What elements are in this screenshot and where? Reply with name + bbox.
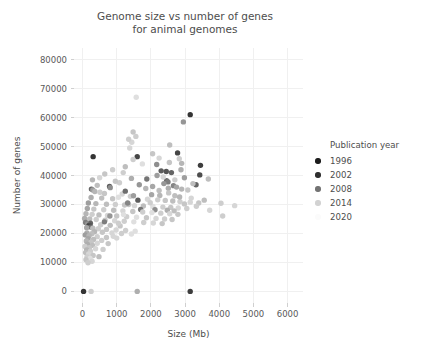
data-point	[167, 142, 172, 147]
y-tick-label: 80000	[40, 55, 67, 65]
data-point	[134, 215, 139, 220]
x-tick-label: 3000	[174, 309, 196, 319]
data-point	[172, 177, 177, 182]
data-point	[198, 163, 203, 168]
data-point	[108, 185, 113, 190]
data-point	[127, 145, 132, 150]
data-point	[96, 254, 101, 259]
legend-marker-icon	[306, 172, 330, 177]
y-tick-label: 30000	[40, 199, 67, 209]
data-point	[232, 203, 237, 208]
data-point	[113, 179, 118, 184]
data-point	[96, 212, 101, 217]
data-point	[121, 170, 126, 175]
data-point	[105, 241, 110, 246]
legend-title: Publication year	[330, 140, 424, 150]
data-point	[164, 169, 169, 174]
data-point	[150, 184, 155, 189]
data-point	[156, 155, 161, 160]
data-point	[218, 201, 223, 206]
tick-layer	[71, 60, 288, 307]
legend-item[interactable]: 2014	[306, 196, 424, 210]
data-point	[83, 211, 88, 216]
y-tick-label: 10000	[40, 257, 67, 267]
data-point	[85, 206, 90, 211]
data-point	[175, 212, 180, 217]
x-tick-label: 1000	[106, 309, 128, 319]
legend-label: 2020	[330, 212, 352, 222]
data-point	[113, 202, 118, 207]
data-point	[116, 221, 121, 226]
data-point	[123, 164, 128, 169]
data-point	[97, 175, 102, 180]
data-point	[149, 210, 154, 215]
data-point	[122, 219, 127, 224]
data-point	[143, 186, 148, 191]
data-point	[170, 198, 175, 203]
data-point	[166, 186, 171, 191]
y-tick-label: 50000	[40, 142, 67, 152]
x-tick-label: 5000	[243, 309, 265, 319]
data-point	[129, 231, 134, 236]
data-point	[104, 235, 109, 240]
legend-label: 2014	[330, 198, 352, 208]
x-tick-label: 4000	[208, 309, 230, 319]
data-point	[85, 260, 90, 265]
data-point	[111, 234, 116, 239]
data-point	[161, 181, 166, 186]
data-point	[220, 213, 225, 218]
data-point	[95, 183, 100, 188]
data-point	[99, 195, 104, 200]
data-point	[177, 194, 182, 199]
legend-item[interactable]: 2002	[306, 168, 424, 182]
data-point	[131, 219, 136, 224]
data-point	[90, 177, 95, 182]
y-tick-label: 70000	[40, 84, 67, 94]
legend-rows: 19962002200820142020	[306, 154, 424, 224]
data-point	[149, 192, 154, 197]
legend-marker-icon	[306, 158, 330, 163]
data-point	[111, 208, 116, 213]
data-point	[148, 200, 153, 205]
data-point	[102, 171, 107, 176]
data-point	[100, 247, 105, 252]
data-point	[90, 154, 95, 159]
data-point	[121, 212, 126, 217]
data-point	[104, 201, 109, 206]
y-tick-label: 40000	[40, 171, 67, 181]
data-point	[172, 193, 177, 198]
legend-dot	[315, 158, 320, 163]
data-point	[181, 119, 186, 124]
data-point	[158, 168, 163, 173]
data-point	[150, 151, 155, 156]
data-point	[123, 188, 128, 193]
data-point	[140, 209, 145, 214]
legend-item[interactable]: 2020	[306, 210, 424, 224]
data-point	[158, 210, 163, 215]
data-point	[154, 173, 159, 178]
data-point	[179, 186, 184, 191]
data-point	[188, 289, 193, 294]
legend-item[interactable]: 1996	[306, 154, 424, 168]
data-point	[133, 134, 138, 139]
data-point	[86, 200, 91, 205]
data-point	[102, 219, 107, 224]
data-point	[101, 207, 106, 212]
data-point	[135, 289, 140, 294]
data-point	[163, 198, 168, 203]
legend: Publication year 19962002200820142020	[306, 140, 424, 224]
data-point	[94, 217, 99, 222]
data-point	[167, 160, 172, 165]
legend-dot	[315, 172, 320, 177]
data-point	[137, 182, 142, 187]
data-point	[154, 162, 159, 167]
data-point	[144, 215, 149, 220]
data-point	[179, 161, 184, 166]
data-point	[177, 156, 182, 161]
data-point	[93, 246, 98, 251]
data-point	[134, 95, 139, 100]
legend-item[interactable]: 2008	[306, 182, 424, 196]
data-point	[91, 206, 96, 211]
data-point	[169, 217, 174, 222]
data-point	[206, 176, 211, 181]
